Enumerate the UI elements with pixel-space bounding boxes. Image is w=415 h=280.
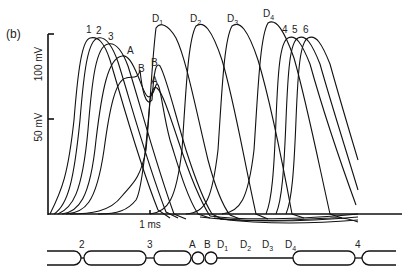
trace-label-d1: D1 xyxy=(152,13,163,26)
trace-d2 xyxy=(150,24,268,219)
trace-6 xyxy=(286,37,358,214)
axon-label-4: 4 xyxy=(355,239,361,250)
axon-label-d3: D3 xyxy=(262,239,273,252)
internode-d4-4 xyxy=(293,251,355,265)
trace-label-b: B xyxy=(138,63,145,74)
axon-label-a: A xyxy=(189,239,196,250)
trace-label-4: 4 xyxy=(282,24,288,35)
trace-label-3: 3 xyxy=(108,31,114,42)
trace-label-5: 5 xyxy=(292,24,298,35)
y-tick-50-label: 50 mV xyxy=(33,112,44,141)
trace-label-b2: B xyxy=(151,57,158,68)
trace-d1-prefoot xyxy=(70,25,240,219)
axon-labels: 2 3 A B D1 D2 D3 D4 4 xyxy=(79,239,361,252)
trace-label-1: 1 xyxy=(86,24,92,35)
trace-label-d4: D4 xyxy=(263,8,274,21)
trace-label-a2: A xyxy=(151,75,158,86)
axon-label-d2: D2 xyxy=(240,239,251,252)
axon-label-d1: D1 xyxy=(217,239,228,252)
axon-label-b: B xyxy=(204,239,211,250)
trace-labels: 1 2 3 A B B A D1 D2 D3 D4 4 5 6 xyxy=(86,8,309,86)
y-axis xyxy=(48,34,54,215)
internode-2-3 xyxy=(84,251,146,265)
action-potential-figure: (b) 100 mV 50 mV 1 ms xyxy=(0,0,415,280)
axon-label-d4: D4 xyxy=(285,239,296,252)
panel-label: (b) xyxy=(6,27,21,41)
internode-left xyxy=(47,251,81,265)
axon-label-2: 2 xyxy=(79,239,85,250)
trace-label-2: 2 xyxy=(96,25,102,36)
segment-b xyxy=(205,252,217,264)
trace-b xyxy=(66,65,222,219)
internode-3-a xyxy=(154,251,191,265)
y-tick-100-label: 100 mV xyxy=(33,46,44,81)
segment-a xyxy=(192,252,204,264)
action-potential-traces xyxy=(50,22,358,223)
trace-label-d2: D2 xyxy=(190,13,201,26)
internode-right xyxy=(362,251,396,265)
trace-label-a: A xyxy=(127,45,134,56)
x-tick-1ms-label: 1 ms xyxy=(139,219,161,230)
trace-label-d3: D3 xyxy=(227,13,238,26)
trace-label-6: 6 xyxy=(303,24,309,35)
axon-label-3: 3 xyxy=(147,239,153,250)
trace-5 xyxy=(276,37,358,214)
axon-schematic xyxy=(47,251,396,265)
trace-3 xyxy=(58,44,186,219)
